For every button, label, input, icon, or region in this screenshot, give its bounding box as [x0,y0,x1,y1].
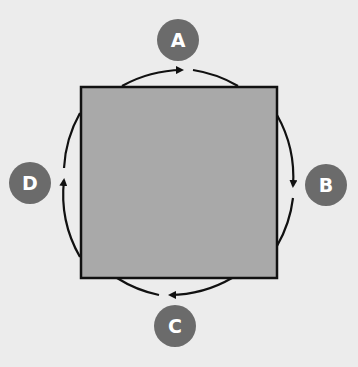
label-c: C [168,315,182,337]
arrow-right [277,115,293,186]
arrow-left [63,180,80,257]
badge-c: C [154,305,196,347]
label-d: D [22,172,38,194]
badge-b: B [305,164,347,206]
badge-d: D [9,162,51,204]
square [81,87,277,278]
badge-a: A [157,19,199,61]
arrow-bottom [170,278,232,295]
label-a: A [171,29,186,51]
label-b: B [319,174,333,196]
rotation-diagram: A B C D [0,0,358,367]
arrow-top [122,70,182,86]
